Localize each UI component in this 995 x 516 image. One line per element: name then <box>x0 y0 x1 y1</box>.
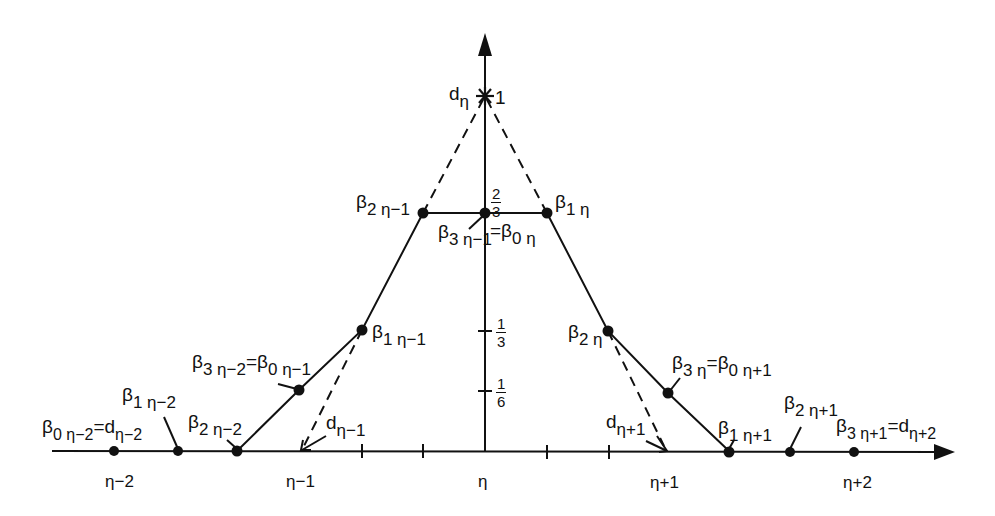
x-tick-label-n-minus-2: η−2 <box>105 472 134 492</box>
label-base: β <box>192 351 203 372</box>
x-tick-label-n-plus-2: η+2 <box>843 473 872 493</box>
label-base: β <box>555 191 566 212</box>
x-tick-label-n: η <box>478 472 487 492</box>
fraction-denominator: 3 <box>491 203 501 219</box>
label-beta2-n-minus-2: β2 η−2 <box>188 412 242 431</box>
label-sub: 1 η−2 <box>133 393 176 412</box>
fraction-numerator: 2 <box>491 186 501 203</box>
label-beta1-n-minus-2: β1 η−2 <box>122 385 176 404</box>
label-base: β <box>672 352 683 373</box>
label-d-n-minus-1: dη−1 <box>326 413 365 432</box>
label-sub: η <box>460 92 469 111</box>
label-beta3-n-minus-2: β3 η−2=β0 η−1 <box>192 352 311 371</box>
label-eq-beta0-n: =β0 η <box>490 221 536 240</box>
label-base: d <box>326 412 337 433</box>
label-sub: 3 η−1 <box>449 230 492 249</box>
label-sub2: 0 η+1 <box>729 361 772 380</box>
label-d-n-plus-1: dη+1 <box>606 412 645 431</box>
fraction-one-third: 1 3 <box>496 316 506 349</box>
label-sub: 2 η−1 <box>367 200 410 219</box>
label-base: β <box>188 411 199 432</box>
label-sub: η+1 <box>617 420 646 439</box>
label-eq: =β <box>246 351 268 372</box>
x-tick-label-n-minus-1: η−1 <box>286 472 315 492</box>
label-beta2-n-minus-1: β2 η−1 <box>356 192 410 211</box>
label-sub2: η−2 <box>115 426 142 443</box>
label-d-n: dη <box>449 84 469 103</box>
fraction-numerator: 1 <box>496 316 506 333</box>
label-base: β <box>372 321 383 342</box>
label-sub: 1 η+1 <box>729 426 772 445</box>
label-beta1-n-minus-1: β1 η−1 <box>372 322 426 341</box>
label-base: d <box>449 83 460 104</box>
label-base: β <box>356 191 367 212</box>
label-sub: 0 η−2 <box>53 426 93 443</box>
label-sub: 3 η−2 <box>203 360 246 379</box>
label-sub: 2 η−2 <box>199 420 242 439</box>
label-eq: =d <box>887 415 909 436</box>
label-sub: 1 η−1 <box>383 330 426 349</box>
fraction-one-sixth: 1 6 <box>496 376 506 409</box>
x-axis-arrow-icon <box>934 444 955 460</box>
fraction-denominator: 6 <box>496 393 506 409</box>
label-sub: 1 η <box>566 200 590 219</box>
label-beta2-n-plus-1: β2 η+1 <box>784 393 838 412</box>
label-sub: 2 η <box>579 330 603 349</box>
x-axis <box>52 451 940 452</box>
label-sub: 2 η+1 <box>795 401 838 420</box>
label-base: β <box>122 384 133 405</box>
label-base: d <box>606 411 617 432</box>
label-sub: 3 η+1 <box>847 425 887 442</box>
fraction-two-thirds: 2 3 <box>491 186 501 219</box>
label-sub: 3 η <box>683 361 707 380</box>
star-icon <box>476 87 494 105</box>
fraction-numerator: 1 <box>496 376 506 393</box>
label-eq: =d <box>93 416 115 437</box>
label-beta1-n: β1 η <box>555 192 590 211</box>
label-base: β <box>718 417 729 438</box>
label-beta3-n-plus-1: β3 η+1=dη+2 <box>836 416 936 435</box>
label-beta0-n-minus-2: β0 η−2=dη−2 <box>42 417 142 436</box>
label-sub: 0 η <box>512 229 536 248</box>
label-base: β <box>836 415 847 436</box>
label-sub: η−1 <box>337 421 366 440</box>
label-eq: =β <box>490 220 512 241</box>
label-beta3-n: β3 η=β0 η+1 <box>672 353 772 372</box>
label-sub2: η+2 <box>909 425 936 442</box>
label-sub2: 0 η−1 <box>268 360 311 379</box>
label-beta2-n: β2 η <box>568 322 603 341</box>
y-axis-arrow-icon <box>478 33 492 56</box>
label-base: β <box>42 416 53 437</box>
label-beta1-n-plus-1: β1 η+1 <box>718 418 772 437</box>
label-base: β <box>438 221 449 242</box>
bspline-basis-diagram <box>0 0 995 516</box>
label-base: β <box>784 392 795 413</box>
x-tick-label-n-plus-1: η+1 <box>650 473 679 493</box>
label-beta3-n-minus-1: β3 η−1 <box>438 222 492 241</box>
label-one: 1 <box>495 88 506 107</box>
fraction-denominator: 3 <box>496 333 506 349</box>
label-eq: =β <box>707 352 729 373</box>
label-base: β <box>568 321 579 342</box>
